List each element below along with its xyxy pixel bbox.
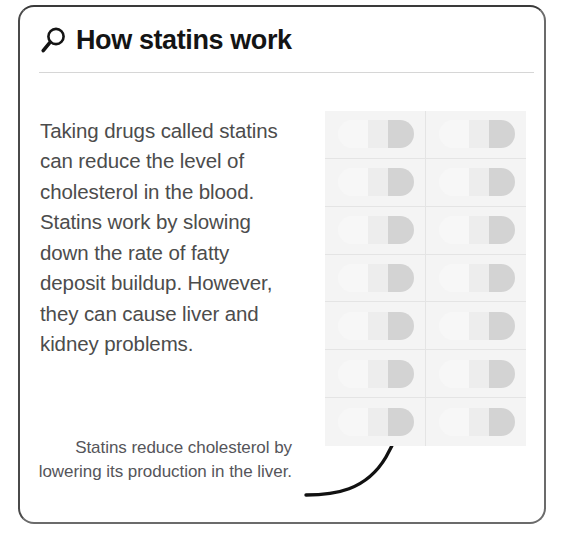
card-header: How statins work <box>40 19 292 61</box>
blister-cell <box>325 255 426 303</box>
blister-cell <box>426 255 527 303</box>
blister-cell <box>325 350 426 398</box>
blister-pack-illustration <box>325 111 526 446</box>
pill-pocket <box>338 120 372 148</box>
page-title: How statins work <box>76 27 292 54</box>
blister-cell <box>325 302 426 350</box>
pill-pocket <box>338 216 372 244</box>
pill-pocket <box>338 408 372 436</box>
capsule-pill <box>368 168 414 196</box>
annotation-caption: Statins reduce cholesterol by lowering i… <box>30 436 292 484</box>
capsule-pill <box>469 408 515 436</box>
blister-cell <box>325 207 426 255</box>
pill-pocket <box>439 264 473 292</box>
capsule-pill <box>469 312 515 340</box>
body-paragraph: Taking drugs called statins can reduce t… <box>40 116 290 360</box>
capsule-pill <box>368 360 414 388</box>
capsule-pill <box>469 216 515 244</box>
pill-pocket <box>439 120 473 148</box>
pill-pocket <box>439 360 473 388</box>
blister-cell <box>325 398 426 446</box>
capsule-pill <box>368 120 414 148</box>
capsule-pill <box>368 312 414 340</box>
pill-pocket <box>338 264 372 292</box>
capsule-pill <box>469 264 515 292</box>
pill-pocket <box>338 168 372 196</box>
capsule-pill <box>368 264 414 292</box>
blister-cell <box>426 207 527 255</box>
capsule-pill <box>469 168 515 196</box>
pill-pocket <box>338 312 372 340</box>
search-icon <box>40 25 66 55</box>
header-divider <box>39 72 534 73</box>
pill-pocket <box>439 408 473 436</box>
pill-pocket <box>338 360 372 388</box>
capsule-pill <box>469 360 515 388</box>
blister-cell <box>426 398 527 446</box>
pill-pocket <box>439 216 473 244</box>
capsule-pill <box>368 216 414 244</box>
capsule-pill <box>469 120 515 148</box>
pill-pocket <box>439 168 473 196</box>
blister-cell <box>426 350 527 398</box>
info-card: How statins work Taking drugs called sta… <box>18 5 546 524</box>
pill-pocket <box>439 312 473 340</box>
blister-cell <box>426 111 527 159</box>
capsule-pill <box>368 408 414 436</box>
blister-cell <box>426 302 527 350</box>
blister-cell <box>325 159 426 207</box>
blister-cell <box>426 159 527 207</box>
blister-cell <box>325 111 426 159</box>
